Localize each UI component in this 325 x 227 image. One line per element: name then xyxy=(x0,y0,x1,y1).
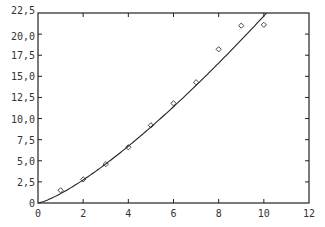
data-points-layer xyxy=(58,22,266,193)
y-tick-label: 10,0 xyxy=(11,114,35,125)
y-tick-label: 12,5 xyxy=(11,92,35,103)
y-tick-label: 22,5 xyxy=(11,5,35,16)
y-axis-ticks: 02,55,07,510,012,515,017,520,022,5 xyxy=(11,5,309,209)
y-tick-label: 7,5 xyxy=(17,135,35,146)
y-tick-label: 17,5 xyxy=(11,50,35,61)
x-axis-ticks: 024681012 xyxy=(35,13,315,219)
y-tick-label: 0 xyxy=(29,198,35,209)
plot-border xyxy=(38,13,309,203)
y-tick-label: 15,0 xyxy=(11,71,35,82)
fit-curve xyxy=(38,13,266,203)
x-tick-label: 4 xyxy=(125,208,131,219)
x-tick-label: 0 xyxy=(35,208,41,219)
y-tick-label: 20,0 xyxy=(11,31,35,42)
chart: 024681012 02,55,07,510,012,515,017,520,0… xyxy=(0,0,325,227)
data-point xyxy=(239,23,244,28)
data-point xyxy=(216,47,221,52)
plot-frame xyxy=(38,13,309,203)
y-tick-label: 2,5 xyxy=(17,177,35,188)
x-tick-label: 6 xyxy=(170,208,176,219)
fit-curve-layer xyxy=(38,13,266,203)
x-tick-label: 12 xyxy=(303,208,315,219)
y-tick-label: 5,0 xyxy=(17,156,35,167)
data-point xyxy=(261,22,266,27)
x-tick-label: 2 xyxy=(80,208,86,219)
x-tick-label: 8 xyxy=(216,208,222,219)
x-tick-label: 10 xyxy=(258,208,270,219)
